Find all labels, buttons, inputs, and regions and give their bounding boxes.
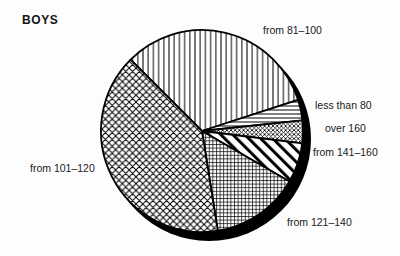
slice-label-from-141-160: from 141–160 [313,146,378,158]
slice-label-less-than-80: less than 80 [315,99,372,111]
chart-canvas: BOYS [0,0,400,256]
slice-label-from-121-140: from 121–140 [287,216,352,228]
slice-label-from-81-100: from 81–100 [263,24,322,36]
pie-slices [101,30,303,232]
slice-label-over-160: over 160 [325,122,366,134]
slice-label-from-101-120: from 101–120 [30,162,95,174]
